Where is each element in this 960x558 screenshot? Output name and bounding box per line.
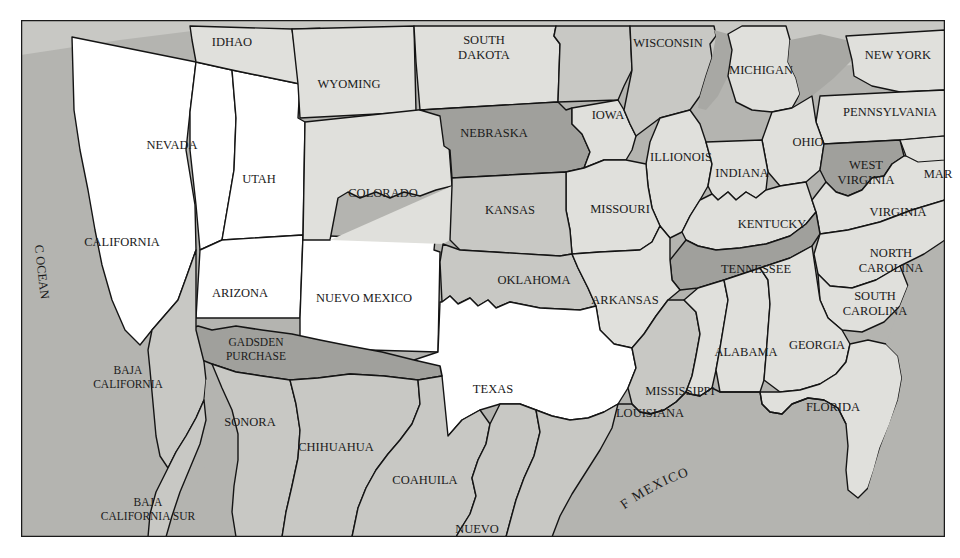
region-label-text: NORTH xyxy=(870,246,912,260)
region-label-arkansas: ARKANSAS xyxy=(591,293,658,307)
region-label-text: ALABAMA xyxy=(714,345,777,359)
region-label-text: VIRGINIA xyxy=(838,173,895,187)
region-label-text: ILLIONOIS xyxy=(650,150,712,164)
region-label-text: INDIANA xyxy=(715,166,768,180)
region-label-text: ARIZONA xyxy=(212,286,268,300)
region-label-text: LOUISIANA xyxy=(616,406,684,420)
region-label-text: NUEVO MEXICO xyxy=(316,291,412,305)
region-label-text: SONORA xyxy=(224,415,275,429)
region-label-illinois: ILLIONOIS xyxy=(650,150,712,164)
region-label-text: BAJA xyxy=(114,364,143,376)
region-label-text: IOWA xyxy=(592,108,625,122)
region-label-text: NUEVO xyxy=(455,522,499,536)
region-label-california: CALIFORNIA xyxy=(84,235,160,249)
region-label-text: NEBRASKA xyxy=(460,126,527,140)
region-label-sonora: SONORA xyxy=(224,415,275,429)
region-label-nebraska: NEBRASKA xyxy=(460,126,527,140)
map-body xyxy=(21,20,945,537)
region-label-coahuila: COAHUILA xyxy=(392,473,457,487)
region-label-kentucky: KENTUCKY xyxy=(738,217,807,231)
region-label-south-dakota: SOUTHDAKOTA xyxy=(458,33,510,62)
region-label-ohio: OHIO xyxy=(792,135,823,149)
region-label-text: PENNSYLVANIA xyxy=(843,105,937,119)
region-wyoming[interactable] xyxy=(292,26,416,118)
region-label-texas: TEXAS xyxy=(473,382,513,396)
region-label-wisconsin: WISCONSIN xyxy=(633,36,702,50)
region-label-text: VIRGINIA xyxy=(870,205,927,219)
region-label-text: TEXAS xyxy=(473,382,513,396)
region-arizona[interactable] xyxy=(196,235,303,318)
region-label-text: KENTUCKY xyxy=(738,217,807,231)
region-label-text: COLORADO xyxy=(348,186,417,200)
region-label-louisiana: LOUISIANA xyxy=(616,406,684,420)
region-label-text: DAKOTA xyxy=(458,48,510,62)
region-label-text: WYOMING xyxy=(317,77,380,91)
region-label-text: OKLAHOMA xyxy=(498,273,571,287)
region-minnesota[interactable] xyxy=(554,26,632,102)
region-label-text: CALIFORNIA xyxy=(93,378,163,390)
region-label-chihuahua: CHIHUAHUA xyxy=(298,440,374,454)
region-label-text: WISCONSIN xyxy=(633,36,702,50)
region-label-maryland: MAR xyxy=(924,167,953,181)
region-label-nuevo-leon: NUEVO xyxy=(455,522,499,536)
region-label-florida: FLORIDA xyxy=(806,400,860,414)
map-container: IDHAOWYOMINGSOUTHDAKOTAWISCONSINMICHIGAN… xyxy=(0,0,960,558)
region-label-text: CHIHUAHUA xyxy=(298,440,374,454)
region-label-text: CALIFORNIA xyxy=(84,235,160,249)
region-label-virginia: VIRGINIA xyxy=(870,205,927,219)
region-label-text: COAHUILA xyxy=(392,473,457,487)
region-label-text: SOUTH xyxy=(854,289,896,303)
region-label-arizona: ARIZONA xyxy=(212,286,268,300)
united-states-map[interactable]: IDHAOWYOMINGSOUTHDAKOTAWISCONSINMICHIGAN… xyxy=(0,0,960,558)
region-label-nevada: NEVADA xyxy=(146,138,197,152)
region-label-colorado: COLORADO xyxy=(348,186,417,200)
region-label-idaho: IDHAO xyxy=(212,35,252,49)
region-label-text: GEORGIA xyxy=(789,338,845,352)
region-label-text: CAROLINA xyxy=(843,304,908,318)
region-label-text: NEW YORK xyxy=(865,48,931,62)
region-label-text: WEST xyxy=(849,158,883,172)
region-label-text: CALIFORNIA SUR xyxy=(101,510,196,522)
region-label-wyoming: WYOMING xyxy=(317,77,380,91)
region-label-nuevo-mexico: NUEVO MEXICO xyxy=(316,291,412,305)
region-label-mississippi: MISSISSIPPI xyxy=(645,384,714,398)
region-label-text: OHIO xyxy=(792,135,823,149)
region-label-text: BAJA xyxy=(134,496,163,508)
region-label-text: FLORIDA xyxy=(806,400,860,414)
region-label-text: UTAH xyxy=(242,172,276,186)
region-label-text: CAROLINA xyxy=(859,261,924,275)
region-label-oklahoma: OKLAHOMA xyxy=(498,273,571,287)
region-label-text: GADSDEN xyxy=(229,336,285,348)
region-label-michigan: MICHIGAN xyxy=(729,63,793,77)
region-label-iowa: IOWA xyxy=(592,108,625,122)
region-label-indiana: INDIANA xyxy=(715,166,768,180)
region-label-missouri: MISSOURI xyxy=(590,202,650,216)
region-label-utah: UTAH xyxy=(242,172,276,186)
region-label-text: MICHIGAN xyxy=(729,63,793,77)
region-label-tennessee: TENNESSEE xyxy=(721,262,792,276)
region-label-pennsylvania: PENNSYLVANIA xyxy=(843,105,937,119)
region-label-text: ARKANSAS xyxy=(591,293,658,307)
region-label-text: PURCHASE xyxy=(226,350,286,362)
region-label-text: MISSISSIPPI xyxy=(645,384,714,398)
region-label-text: NEVADA xyxy=(146,138,197,152)
region-label-text: IDHAO xyxy=(212,35,252,49)
region-label-alabama: ALABAMA xyxy=(714,345,777,359)
region-utah[interactable] xyxy=(222,70,305,240)
region-label-text: KANSAS xyxy=(485,203,535,217)
region-label-kansas: KANSAS xyxy=(485,203,535,217)
region-label-text: MAR xyxy=(924,167,953,181)
region-label-text: TENNESSEE xyxy=(721,262,792,276)
region-label-text: SOUTH xyxy=(463,33,505,47)
region-label-new-york: NEW YORK xyxy=(865,48,931,62)
region-label-georgia: GEORGIA xyxy=(789,338,845,352)
region-label-text: MISSOURI xyxy=(590,202,650,216)
